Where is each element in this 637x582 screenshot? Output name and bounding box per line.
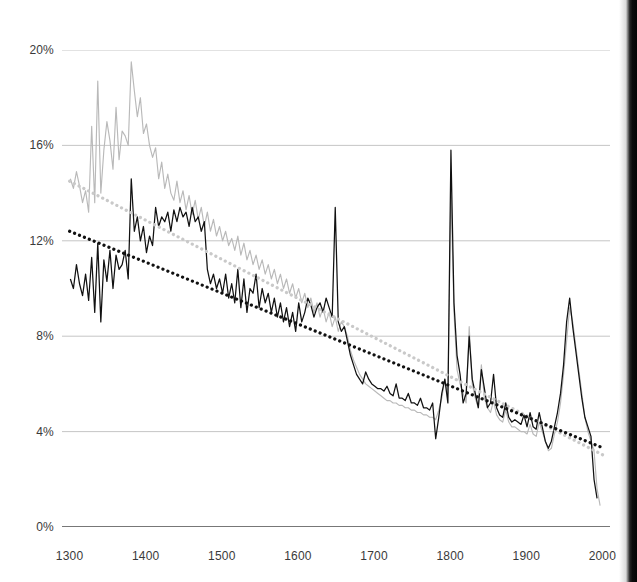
- trendline-group: [70, 181, 604, 455]
- y-axis-tick-label: 0%: [14, 521, 54, 533]
- x-axis-tick-label: 1700: [344, 549, 404, 563]
- caption-text-left: 全球黄分官自漏行率 ─ 坡算前十均植计算: [58, 0, 268, 1]
- x-axis-tick-label: 1800: [420, 549, 480, 563]
- chart-canvas: [62, 50, 610, 527]
- y-axis: 20%16%12%8%4%0%: [8, 0, 54, 582]
- x-axis-tick-label: 1300: [40, 549, 100, 563]
- y-axis-tick-label: 4%: [14, 426, 54, 438]
- data-series-group: [70, 62, 600, 506]
- x-axis-tick-label: 1400: [116, 549, 176, 563]
- x-axis-tick-label: 1900: [496, 549, 556, 563]
- y-axis-tick-label: 16%: [14, 139, 54, 151]
- y-axis-tick-label: 8%: [14, 330, 54, 342]
- x-axis-tick-label: 1600: [268, 549, 328, 563]
- chart-page: 全球黄分官自漏行率 ─ 坡算前十均植计算 城值追踪（显示的数值 是年度均卒） 时…: [0, 0, 637, 582]
- gridlines: [62, 50, 610, 527]
- series-line-light-series: [70, 62, 600, 506]
- series-line-dark-series: [70, 150, 597, 498]
- x-axis-tick-label: 1500: [192, 549, 252, 563]
- trendline-light-trend: [70, 181, 604, 455]
- caption-strip: 全球黄分官自漏行率 ─ 坡算前十均植计算 城值追踪（显示的数值 是年度均卒） 时…: [0, 0, 637, 11]
- y-axis-tick-label: 20%: [14, 44, 54, 56]
- caption-text-right: 城值追踪（显示的数值 是年度均卒） 时间标尺 为对敷比列: [336, 0, 632, 1]
- x-axis: 13001400150016001700180019002000: [0, 549, 637, 569]
- page-edge-band: [626, 0, 637, 582]
- plot-area: [62, 50, 610, 527]
- y-axis-tick-label: 12%: [14, 235, 54, 247]
